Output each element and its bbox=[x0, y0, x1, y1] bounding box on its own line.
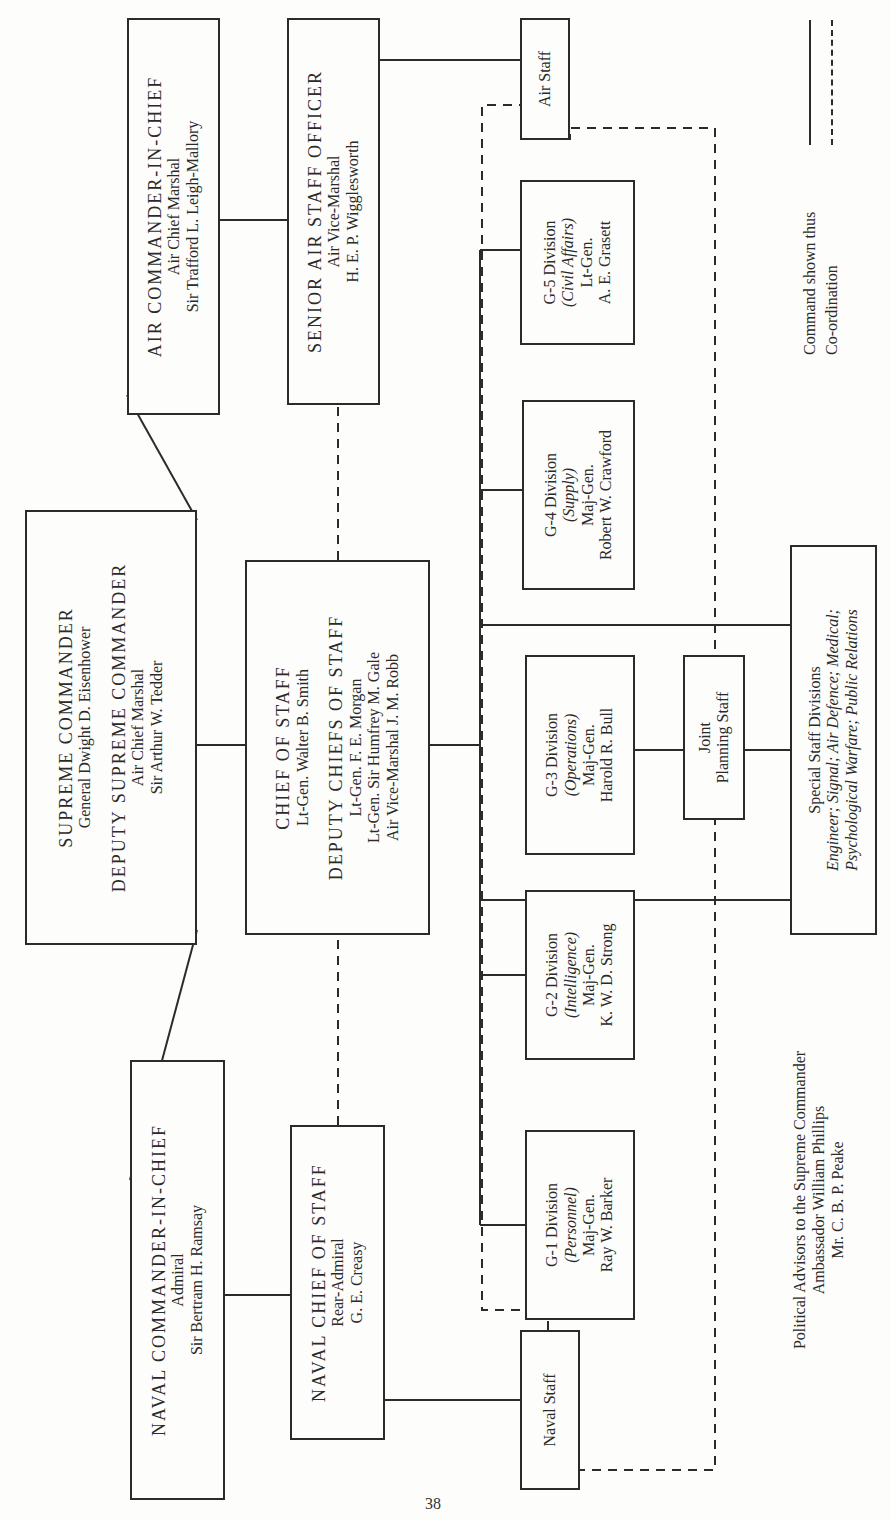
g1-rank: Maj-Gen. bbox=[580, 1194, 598, 1256]
deputy-supreme-name: Sir Arthur W. Tedder bbox=[148, 661, 166, 795]
cos-title: CHIEF OF STAFF bbox=[273, 665, 294, 830]
political-title: Political Advisors to the Supreme Comman… bbox=[790, 1000, 809, 1400]
naval-cos-rank: Rear-Admiral bbox=[329, 1238, 347, 1327]
g4-name: Robert W. Crawford bbox=[597, 430, 615, 560]
senior-air-name: H. E. P. Wigglesworth bbox=[344, 140, 362, 282]
air-cinc-name: Sir Trafford L. Leigh-Mallory bbox=[184, 121, 202, 313]
deputy-supreme-rank: Air Chief Marshal bbox=[129, 669, 147, 786]
g5-division-box: G-5 Division (Civil Affairs) Lt-Gen. A. … bbox=[520, 180, 635, 345]
air-cinc-box: AIR COMMANDER-IN-CHIEF Air Chief Marshal… bbox=[127, 18, 220, 415]
legend-solid-line bbox=[809, 20, 811, 145]
naval-staff-label: Naval Staff bbox=[541, 1374, 559, 1447]
joint-planning-line1: Joint bbox=[696, 722, 714, 753]
naval-cinc-name: Sir Bertram H. Ramsay bbox=[188, 1205, 206, 1355]
naval-staff-box: Naval Staff bbox=[520, 1330, 580, 1490]
g5-name: A. E. Grasett bbox=[596, 221, 614, 305]
g1-area: (Personnel) bbox=[562, 1187, 580, 1263]
supreme-name: General Dwight D. Eisenhower bbox=[76, 627, 94, 829]
naval-cinc-title: NAVAL COMMANDER-IN-CHIEF bbox=[149, 1124, 170, 1436]
g3-division-box: G-3 Division (Operations) Maj-Gen. Harol… bbox=[525, 655, 635, 855]
naval-cos-title: NAVAL CHIEF OF STAFF bbox=[309, 1163, 330, 1402]
naval-cos-name: G. E. Creasy bbox=[348, 1242, 366, 1324]
joint-planning-line2: Planning Staff bbox=[714, 692, 732, 784]
g2-area: (Intelligence) bbox=[562, 932, 580, 1018]
g5-title: G-5 Division bbox=[541, 221, 559, 305]
g5-rank: Lt-Gen. bbox=[578, 237, 596, 287]
air-staff-label: Air Staff bbox=[536, 51, 554, 107]
g2-rank: Maj-Gen. bbox=[580, 944, 598, 1006]
cos-name: Lt-Gen. Walter B. Smith bbox=[294, 669, 312, 826]
deputy-cos-title: DEPUTY CHIEFS OF STAFF bbox=[326, 615, 347, 880]
special-staff-line1: Engineer; Signal; Air Defence; Medical; bbox=[824, 609, 842, 871]
special-staff-title: Special Staff Divisions bbox=[806, 666, 824, 813]
org-chart: NAVAL COMMANDER-IN-CHIEF Admiral Sir Ber… bbox=[0, 0, 891, 1520]
g3-rank: Maj-Gen. bbox=[580, 724, 598, 786]
g1-title: G-1 Division bbox=[543, 1183, 561, 1267]
senior-air-staff-officer-box: SENIOR AIR STAFF OFFICER Air Vice-Marsha… bbox=[287, 18, 380, 405]
supreme-commander-box: SUPREME COMMANDER General Dwight D. Eise… bbox=[25, 510, 197, 945]
g4-area: (Supply) bbox=[560, 468, 578, 522]
g5-area: (Civil Affairs) bbox=[559, 218, 577, 307]
g4-rank: Maj-Gen. bbox=[579, 464, 597, 526]
naval-cinc-rank: Admiral bbox=[169, 1253, 187, 1306]
air-cinc-rank: Air Chief Marshal bbox=[165, 158, 183, 275]
political-advisor-1: Ambassador William Phillips bbox=[809, 1000, 828, 1400]
g2-division-box: G-2 Division (Intelligence) Maj-Gen. K. … bbox=[525, 890, 635, 1060]
g3-name: Harold R. Bull bbox=[598, 708, 616, 803]
legend-dashed-line bbox=[831, 20, 833, 145]
political-advisors: Political Advisors to the Supreme Comman… bbox=[790, 1000, 848, 1400]
g2-name: K. W. D. Strong bbox=[598, 923, 616, 1026]
g4-division-box: G-4 Division (Supply) Maj-Gen. Robert W.… bbox=[522, 400, 635, 590]
senior-air-rank: Air Vice-Marshal bbox=[325, 155, 343, 267]
deputy-cos-1: Lt-Gen. F. E. Morgan bbox=[347, 679, 365, 817]
chief-of-staff-box: CHIEF OF STAFF Lt-Gen. Walter B. Smith D… bbox=[245, 560, 430, 935]
g3-area: (Operations) bbox=[562, 714, 580, 797]
air-cinc-title: AIR COMMANDER-IN-CHIEF bbox=[145, 76, 166, 358]
legend-coordination-label: Co-ordination bbox=[822, 265, 841, 355]
legend-command-label: Command shown thus bbox=[800, 212, 819, 355]
air-staff-box: Air Staff bbox=[520, 18, 570, 140]
senior-air-title: SENIOR AIR STAFF OFFICER bbox=[305, 70, 326, 353]
g1-name: Ray W. Barker bbox=[598, 1178, 616, 1273]
g3-title: G-3 Division bbox=[543, 713, 561, 797]
page-number: 38 bbox=[425, 1495, 441, 1513]
deputy-cos-2: Lt-Gen. Sir Humfrey M. Gale bbox=[365, 652, 383, 843]
g2-title: G-2 Division bbox=[543, 933, 561, 1017]
special-staff-divisions-box: Special Staff Divisions Engineer; Signal… bbox=[790, 545, 877, 935]
naval-cinc-box: NAVAL COMMANDER-IN-CHIEF Admiral Sir Ber… bbox=[130, 1060, 225, 1500]
deputy-cos-3: Air Vice-Marshal J. M. Robb bbox=[384, 654, 402, 841]
political-advisor-2: Mr. C. B. P. Peake bbox=[828, 1000, 847, 1400]
joint-planning-staff-box: Joint Planning Staff bbox=[683, 655, 745, 820]
naval-chief-of-staff-box: NAVAL CHIEF OF STAFF Rear-Admiral G. E. … bbox=[290, 1125, 385, 1440]
supreme-title: SUPREME COMMANDER bbox=[56, 607, 77, 848]
special-staff-line2: Psychological Warfare; Public Relations bbox=[843, 609, 861, 870]
deputy-supreme-title: DEPUTY SUPREME COMMANDER bbox=[109, 563, 130, 892]
g4-title: G-4 Division bbox=[542, 453, 560, 537]
g1-division-box: G-1 Division (Personnel) Maj-Gen. Ray W.… bbox=[525, 1130, 635, 1320]
